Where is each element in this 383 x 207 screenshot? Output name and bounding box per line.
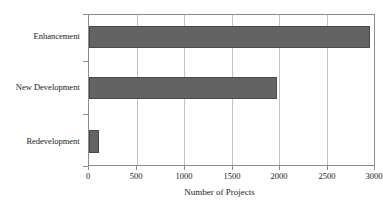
y-axis-label-new-development: New Development — [0, 82, 84, 92]
x-tick-label-3000: 3000 — [354, 171, 383, 182]
y-axis-label-enhancement: Enhancement — [0, 31, 84, 41]
y-axis-label-text: Enhancement — [33, 31, 79, 41]
x-tick-1000 — [184, 166, 185, 170]
x-tick-2000 — [279, 166, 280, 170]
x-tick-label-0: 0 — [68, 171, 108, 182]
x-tick-label-500: 500 — [116, 171, 156, 182]
bar-chart: Enhancement New Development Redevelopmen… — [0, 0, 383, 207]
y-axis-label-redevelopment: Redevelopment — [0, 136, 84, 146]
bar-enhancement — [89, 26, 370, 48]
bar-new-development — [89, 77, 277, 99]
y-tick-2 — [83, 114, 89, 115]
x-tick-0 — [88, 166, 89, 170]
x-tick-label-2500: 2500 — [307, 171, 347, 182]
plot-area — [88, 14, 375, 166]
x-tick-label-1000: 1000 — [164, 171, 204, 182]
x-axis-title-text: Number of Projects — [184, 186, 254, 198]
x-tick-1500 — [232, 166, 233, 170]
x-tick-label-1500: 1500 — [212, 171, 252, 182]
y-tick-1 — [83, 61, 89, 62]
y-tick-top — [83, 14, 89, 15]
y-axis-label-text: New Development — [16, 82, 80, 92]
x-tick-label-2000: 2000 — [259, 171, 299, 182]
x-tick-2500 — [327, 166, 328, 170]
x-tick-3000 — [374, 166, 375, 170]
y-axis-label-text: Redevelopment — [26, 136, 79, 146]
x-axis-title: Number of Projects — [0, 186, 383, 198]
x-tick-500 — [136, 166, 137, 170]
bar-redevelopment — [89, 130, 99, 153]
